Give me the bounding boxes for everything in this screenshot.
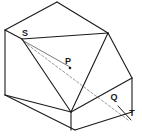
label-p: P (65, 56, 71, 66)
point-marker-p-marker (69, 67, 72, 70)
label-q: Q (110, 92, 117, 102)
solid-figure-svg: S P Q T (0, 0, 142, 140)
label-s: S (22, 28, 28, 38)
label-t: T (129, 108, 135, 118)
geometric-figure-container: S P Q T (0, 0, 142, 140)
point-markers-group (69, 67, 72, 70)
